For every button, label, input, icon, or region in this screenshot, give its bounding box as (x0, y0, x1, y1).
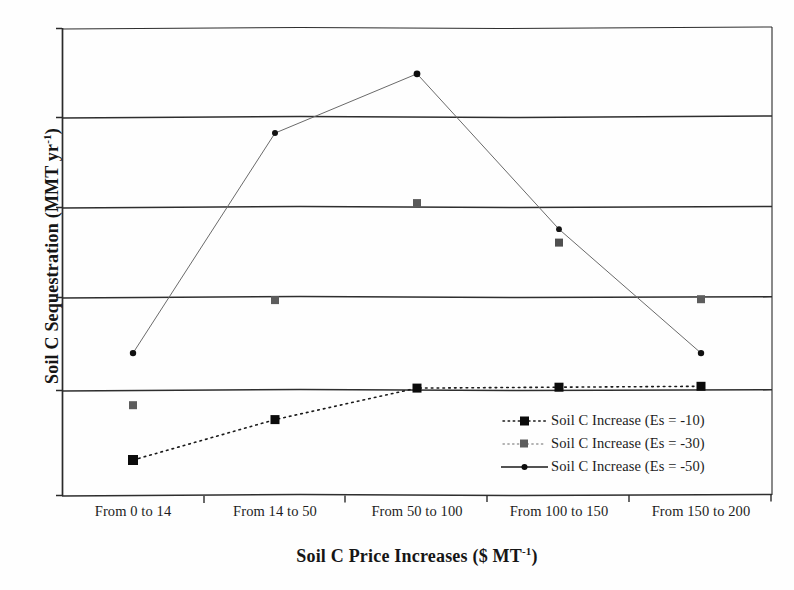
x-tick-label-1: From 0 to 14 (62, 503, 204, 529)
series-es-30-point-3 (413, 199, 421, 207)
gridline-4 (62, 116, 772, 118)
x-tick-label-3: From 50 to 100 (346, 503, 488, 529)
series-es-50 (130, 70, 704, 356)
gridline-top (62, 27, 772, 29)
series-es-30-point-4 (555, 239, 563, 247)
series-es-50-point-5 (698, 350, 704, 356)
series-es-50-line (133, 74, 701, 353)
x-tick-label-4: From 100 to 150 (488, 503, 630, 529)
series-es-10-point-2 (271, 415, 280, 424)
x-axis-title-exponent: -1 (522, 545, 532, 557)
y-axis-ticks (56, 29, 62, 496)
series-es-30-point-5 (697, 295, 705, 303)
dotted-dark-square-key-icon (500, 414, 546, 428)
series-es-50-point-3 (414, 70, 421, 77)
solid-dot-key-icon (500, 460, 546, 474)
series-es-50-point-2 (272, 130, 278, 136)
x-axis-tick-labels: From 0 to 14 From 14 to 50 From 50 to 10… (62, 503, 772, 529)
x-axis-title-tail: ) (532, 546, 538, 566)
series-es-30 (129, 199, 705, 409)
legend-label-es-30: Soil C Increase (Es = -30) (551, 435, 705, 452)
x-axis-title: Soil C Price Increases ($ MT-1) (62, 545, 772, 567)
x-axis-ticks (204, 495, 771, 504)
series-es-10-point-4 (555, 383, 564, 392)
legend-label-es-50: Soil C Increase (Es = -50) (551, 458, 705, 475)
plot-area (0, 0, 794, 590)
axis-bottom (62, 495, 772, 497)
dotted-gray-square-key-icon (500, 437, 546, 451)
series-es-10-point-3 (413, 384, 422, 393)
x-tick-label-2: From 14 to 50 (204, 503, 346, 529)
legend-entry-es-30: Soil C Increase (Es = -30) (500, 432, 768, 455)
series-es-10-point-1 (128, 455, 138, 465)
series-es-30-point-2 (271, 296, 279, 304)
series-es-50-point-1 (130, 350, 136, 356)
x-tick-label-5: From 150 to 200 (630, 503, 772, 529)
x-axis-title-base: Soil C Price Increases ($ MT (296, 546, 522, 566)
chart-figure: Soil C Sequestration (MMT yr-1) (0, 0, 794, 590)
legend-label-es-10: Soil C Increase (Es = -10) (551, 412, 705, 429)
legend-entry-es-50: Soil C Increase (Es = -50) (500, 455, 768, 478)
chart-legend: Soil C Increase (Es = -10) Soil C Increa… (500, 409, 768, 478)
series-es-10-point-5 (697, 382, 706, 391)
series-es-50-point-4 (556, 226, 562, 232)
legend-entry-es-10: Soil C Increase (Es = -10) (500, 409, 768, 432)
series-es-30-point-1 (129, 401, 137, 409)
